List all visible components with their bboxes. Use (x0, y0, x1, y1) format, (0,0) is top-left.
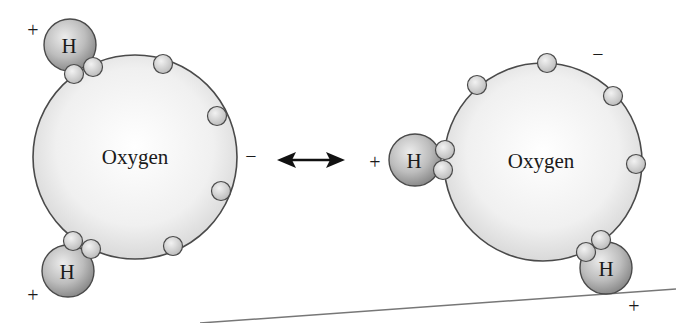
right-hydrogen-bottom-label: H (598, 257, 613, 281)
electron (82, 240, 101, 259)
electron (64, 232, 83, 251)
left-oxygen-charge: − (245, 145, 256, 167)
electron (604, 87, 623, 106)
left-top-h-charge: + (27, 19, 38, 41)
right-bottom-h-charge: + (628, 295, 639, 317)
electron (212, 182, 231, 201)
electron (164, 237, 183, 256)
left-bottom-h-charge: + (27, 284, 38, 306)
right-left-h-charge: + (369, 151, 380, 173)
electron (65, 65, 84, 84)
right-oxygen-charge: − (592, 43, 603, 65)
electron (468, 76, 487, 95)
electron (592, 231, 611, 250)
double-headed-arrow-icon (277, 152, 345, 168)
left-oxygen-label: Oxygen (102, 145, 169, 169)
electron (84, 58, 103, 77)
right-water-molecule: Oxygen H H + + − (369, 43, 645, 317)
right-hydrogen-left-label: H (406, 149, 421, 173)
electron (436, 141, 455, 160)
electron (208, 107, 227, 126)
left-water-molecule: Oxygen H H + + − (27, 19, 256, 306)
left-hydrogen-bottom-label: H (59, 260, 74, 284)
electron (627, 155, 646, 174)
left-hydrogen-top-label: H (61, 34, 76, 58)
electron (538, 54, 557, 73)
electron (434, 161, 453, 180)
water-polarity-diagram: Oxygen H H + + − Oxygen H H (0, 0, 676, 323)
electron (154, 55, 173, 74)
right-oxygen-label: Oxygen (508, 149, 575, 173)
